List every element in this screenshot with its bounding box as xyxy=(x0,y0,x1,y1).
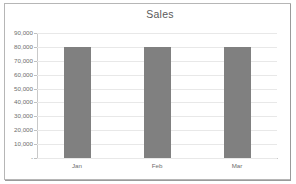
y-axis-labels[interactable]: 90,00080,00070,00060,00050,00040,00030,0… xyxy=(0,0,33,184)
x-axis-tick-label: Mar xyxy=(217,163,257,169)
y-axis-tick xyxy=(34,144,37,145)
bar-jan[interactable] xyxy=(64,47,91,158)
gridline xyxy=(37,158,277,159)
y-axis-tick xyxy=(34,89,37,90)
y-axis-tick-label: 30,000 xyxy=(14,113,33,119)
y-axis-tick xyxy=(34,158,37,159)
chart-border-right-edge xyxy=(290,4,291,181)
y-axis-tick-label: - xyxy=(31,155,33,161)
y-axis-tick-label: 80,000 xyxy=(14,44,33,50)
chart-title[interactable]: Sales xyxy=(40,8,280,20)
gridline xyxy=(37,33,277,34)
y-axis-tick-label: 20,000 xyxy=(14,127,33,133)
bar-feb[interactable] xyxy=(144,47,171,158)
y-axis-tick xyxy=(34,47,37,48)
y-axis-tick xyxy=(34,75,37,76)
y-axis-tick xyxy=(34,102,37,103)
y-axis-tick xyxy=(34,61,37,62)
x-axis-tick-label: Feb xyxy=(137,163,177,169)
y-axis-tick-label: 70,000 xyxy=(14,58,33,64)
x-axis-tick-label: Jan xyxy=(57,163,97,169)
y-axis-tick-label: 90,000 xyxy=(14,30,33,36)
chart-container[interactable]: Sales 90,00080,00070,00060,00050,00040,0… xyxy=(0,0,296,184)
plot-area xyxy=(37,33,277,158)
y-axis-tick-label: 40,000 xyxy=(14,99,33,105)
y-axis-tick-label: 50,000 xyxy=(14,86,33,92)
y-axis-tick xyxy=(34,116,37,117)
y-axis-tick xyxy=(34,33,37,34)
chart-border-bottom-edge xyxy=(5,180,291,181)
bar-mar[interactable] xyxy=(224,47,251,158)
y-axis-tick-label: 60,000 xyxy=(14,72,33,78)
y-axis-tick xyxy=(34,130,37,131)
y-axis-tick-label: 10,000 xyxy=(14,141,33,147)
